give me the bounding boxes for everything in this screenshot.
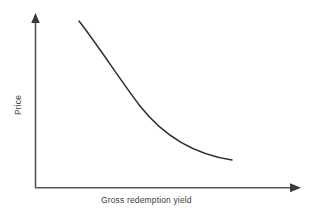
price-yield-curve (79, 21, 232, 160)
price-yield-chart: Gross redemption yield Price (0, 0, 312, 218)
x-axis-label: Gross redemption yield (101, 195, 192, 205)
y-axis-label: Price (13, 95, 23, 115)
up-arrow-icon (31, 13, 40, 23)
chart-plot-area (0, 0, 312, 218)
right-arrow-icon (290, 183, 301, 192)
